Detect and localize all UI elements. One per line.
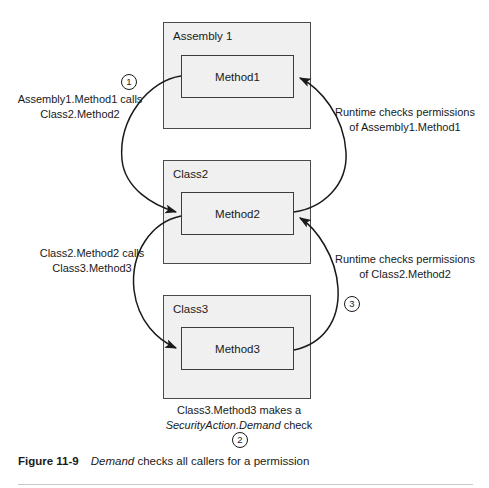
arrow-runtime-checks-class2-method2 [294,218,338,350]
step-badge-1: 1 [121,74,137,90]
annotation-call-1-line2: Class2.Method2 [40,108,120,120]
figure-caption-title-rest: checks all callers for a permission [134,455,309,467]
step-badge-3: 3 [344,296,360,312]
annotation-check-1-line2: of Assembly1.Method1 [349,121,460,133]
figure-11-9: Assembly 1 Method1 Class2 Method2 Class3… [0,0,489,488]
annotation-call-2-line2: Class3.Method3 [52,262,132,274]
figure-caption-title-italic: Demand [91,455,134,467]
annotation-demand-tail: check [281,419,313,431]
diagram-canvas: Assembly 1 Method1 Class2 Method2 Class3… [0,0,489,445]
annotation-check-2-line2: of Class2.Method2 [359,268,451,280]
caption-divider [18,484,473,485]
arrow-runtime-checks-assembly1-method1 [294,78,346,212]
arrow-method2-calls-method3 [134,216,181,348]
annotation-demand-italic: SecurityAction.Demand [166,419,281,431]
annotation-check-2-line1: Runtime checks permissions [335,253,475,265]
annotation-check-2: Runtime checks permissions of Class2.Met… [330,252,480,281]
annotation-call-1-line1: Assembly1.Method1 calls [18,93,143,105]
figure-caption: Figure 11-9Demand checks all callers for… [18,455,473,467]
annotation-demand-line1: Class3.Method3 makes a [177,404,301,416]
annotation-check-1: Runtime checks permissions of Assembly1.… [330,105,480,134]
step-badge-2: 2 [232,432,248,448]
annotation-check-1-line1: Runtime checks permissions [335,106,475,118]
annotation-call-2: Class2.Method2 calls Class3.Method3 [26,246,158,275]
annotation-call-2-line1: Class2.Method2 calls [40,247,145,259]
arrow-layer [0,0,489,445]
figure-caption-label: Figure 11-9 [18,455,79,467]
annotation-call-1: Assembly1.Method1 calls Class2.Method2 [14,92,146,121]
annotation-demand: Class3.Method3 makes a SecurityAction.De… [165,403,313,432]
